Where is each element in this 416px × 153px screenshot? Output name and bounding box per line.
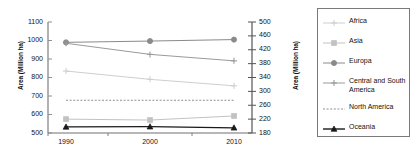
legend-item-label: Africa: [346, 17, 411, 26]
legend: AfricaAsiaEuropaCentral and South Americ…: [317, 8, 410, 137]
x-axis-tick-label: 2010: [217, 138, 251, 145]
left-axis-tick-label: 600: [17, 110, 43, 117]
right-axis-tick-label: 300: [259, 87, 285, 94]
legend-item[interactable]: Oceania: [322, 123, 411, 134]
legend-marker-icon: [322, 38, 346, 48]
right-axis-tick-label: 260: [259, 101, 285, 108]
legend-item-label: Oceania: [346, 123, 411, 132]
left-axis-tick-label: 500: [17, 129, 43, 136]
legend-marker-icon: [322, 58, 346, 68]
right-axis-tick-label: 220: [259, 115, 285, 122]
legend-item-label: Asia: [346, 37, 411, 46]
right-axis-tick-label: 340: [259, 73, 285, 80]
right-axis-tick-label: 420: [259, 45, 285, 52]
left-axis-tick-label: 1000: [17, 36, 43, 43]
left-axis-tick-label: 800: [17, 73, 43, 80]
right-axis-tick-label: 380: [259, 59, 285, 66]
legend-marker-icon: [322, 104, 346, 114]
x-axis-tick-label: 2000: [133, 138, 167, 145]
right-axis-tick-label: 180: [259, 129, 285, 136]
legend-item[interactable]: Central and South America: [322, 77, 411, 94]
left-axis-tick-label: 900: [17, 55, 43, 62]
legend-item-label: Central and South America: [346, 77, 411, 94]
legend-item[interactable]: North America: [322, 103, 411, 114]
legend-item[interactable]: Asia: [322, 37, 411, 48]
chart-figure: Area (Million ha) Area (Million ha) 1100…: [0, 0, 416, 153]
left-axis-tick-label: 700: [17, 92, 43, 99]
legend-item-label: Europa: [346, 57, 411, 66]
legend-marker-icon: [322, 18, 346, 28]
legend-marker-icon: [322, 78, 346, 88]
legend-item-label: North America: [346, 103, 411, 112]
x-axis-tick-label: 1990: [49, 138, 83, 145]
left-axis-tick-label: 1100: [17, 18, 43, 25]
legend-item[interactable]: Europa: [322, 57, 411, 68]
legend-item[interactable]: Africa: [322, 17, 411, 28]
legend-marker-icon: [322, 124, 346, 134]
right-axis-tick-label: 460: [259, 31, 285, 38]
right-axis-tick-label: 500: [259, 18, 285, 25]
